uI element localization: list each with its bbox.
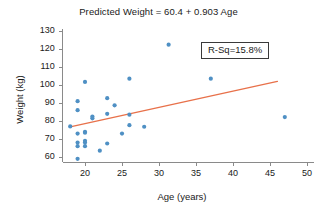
scatterplot-figure: Predicted Weight = 60.4 + 0.903 Age Weig… xyxy=(0,0,317,215)
scatter-point xyxy=(76,157,80,161)
scatter-point xyxy=(83,131,87,135)
x-tick-label: 45 xyxy=(258,168,282,178)
scatter-point xyxy=(76,99,80,103)
scatter-point xyxy=(83,144,87,148)
scatter-point xyxy=(105,112,109,116)
scatter-point xyxy=(142,125,146,129)
regression-line xyxy=(70,81,277,127)
scatter-point xyxy=(105,141,109,145)
y-tick-label: 60 xyxy=(31,151,55,161)
scatter-point xyxy=(83,141,87,145)
y-axis-label: Weight (kg) xyxy=(14,60,25,140)
scatter-point xyxy=(83,80,87,84)
scatter-point xyxy=(76,141,80,145)
scatter-point xyxy=(76,108,80,112)
r-squared-text: R-Sq=15.8% xyxy=(208,44,262,55)
scatter-point xyxy=(127,113,131,117)
scatter-point xyxy=(68,124,72,128)
fit-line xyxy=(70,81,277,127)
y-tick-label: 70 xyxy=(31,133,55,143)
scatter-point xyxy=(105,96,109,100)
axes xyxy=(59,29,315,166)
x-tick-label: 25 xyxy=(110,168,134,178)
x-axis-label: Age (years) xyxy=(62,191,302,202)
y-tick-label: 120 xyxy=(31,43,55,53)
scatter-point xyxy=(209,77,213,81)
y-tick-label: 110 xyxy=(31,61,55,71)
scatter-point xyxy=(283,115,287,119)
x-tick-label: 20 xyxy=(73,168,97,178)
scatter-point xyxy=(127,77,131,81)
y-tick-label: 130 xyxy=(31,25,55,35)
x-tick-label: 35 xyxy=(184,168,208,178)
scatter-point xyxy=(167,43,171,47)
scatter-point xyxy=(120,132,124,136)
x-tick-label: 40 xyxy=(221,168,245,178)
x-tick-label: 50 xyxy=(295,168,317,178)
r-squared-annotation: R-Sq=15.8% xyxy=(201,42,269,59)
x-tick-label: 30 xyxy=(147,168,171,178)
scatter-point xyxy=(113,103,117,107)
scatter-point xyxy=(98,149,102,153)
scatter-point xyxy=(76,132,80,136)
y-tick-label: 100 xyxy=(31,79,55,89)
scatter-point xyxy=(76,144,80,148)
y-tick-label: 80 xyxy=(31,115,55,125)
y-tick-label: 90 xyxy=(31,97,55,107)
scatter-point xyxy=(90,116,94,120)
scatter-point xyxy=(127,123,131,127)
data-points xyxy=(68,43,287,161)
